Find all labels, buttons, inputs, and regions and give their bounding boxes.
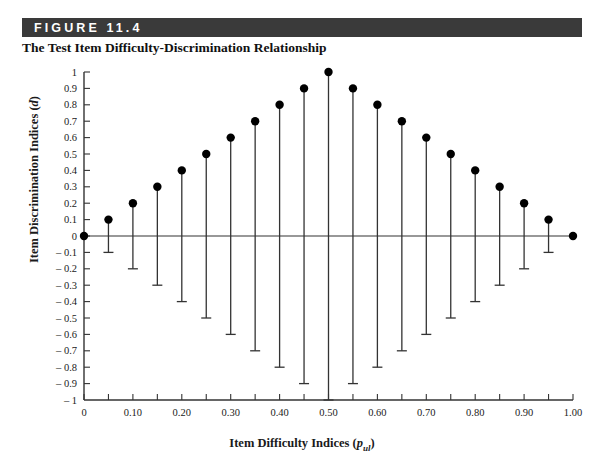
- x-axis-label-subscript: ul: [363, 443, 371, 453]
- data-point: [104, 215, 112, 223]
- y-axis-label-tail: ): [27, 96, 41, 100]
- data-point: [349, 84, 357, 92]
- y-tick-label: 0.7: [64, 116, 77, 127]
- y-tick-label: – 0.5: [55, 313, 77, 324]
- y-axis-label-text: Item Discrimination Indices (: [27, 106, 41, 263]
- y-tick-label: 0.6: [64, 132, 77, 143]
- x-tick-label: 0.40: [270, 407, 288, 418]
- y-axis-label: Item Discrimination Indices (d): [27, 80, 42, 280]
- y-axis-label-italic: d: [27, 100, 41, 106]
- y-tick-label: 0.8: [64, 99, 77, 110]
- data-point: [251, 117, 259, 125]
- y-tick-label: – 0.6: [55, 329, 77, 340]
- y-tick-label: 0.2: [64, 198, 77, 209]
- y-tick-label: – 1: [63, 395, 77, 406]
- x-tick-label: 0.90: [515, 407, 533, 418]
- x-tick-label: 0.70: [417, 407, 435, 418]
- y-tick-label: – 0.7: [55, 345, 77, 356]
- y-tick-label: 1: [72, 67, 77, 78]
- x-axis-label-text: Item Difficulty Indices (: [229, 436, 356, 450]
- figure-root: FIGURE 11.4 The Test Item Difficulty-Dis…: [0, 0, 604, 463]
- x-axis-label: Item Difficulty Indices (pul): [0, 436, 604, 453]
- x-tick-label: 0.10: [124, 407, 142, 418]
- data-point: [324, 68, 332, 76]
- data-point: [447, 150, 455, 158]
- chart-area: 10.90.80.70.60.50.40.30.20.10– 0.1– 0.2–…: [0, 0, 604, 463]
- y-tick-label: – 0.4: [55, 296, 78, 307]
- x-tick-label: 0.50: [319, 407, 337, 418]
- y-tick-label: – 0.8: [55, 362, 77, 373]
- data-point: [471, 166, 479, 174]
- y-tick-label: 0.4: [64, 165, 78, 176]
- data-point: [153, 183, 161, 191]
- data-point: [202, 150, 210, 158]
- x-tick-label: 0.80: [466, 407, 484, 418]
- data-point: [373, 101, 381, 109]
- x-tick-label: 0.60: [368, 407, 386, 418]
- y-tick-label: – 0.1: [55, 247, 77, 258]
- data-point: [544, 215, 552, 223]
- y-tick-label: 0: [72, 231, 77, 242]
- data-point: [227, 133, 235, 141]
- data-point: [178, 166, 186, 174]
- x-axis-label-italic: pul: [357, 436, 371, 450]
- x-axis-label-tail: ): [371, 436, 375, 450]
- x-tick-label: 0.20: [173, 407, 191, 418]
- data-point: [129, 199, 137, 207]
- y-tick-label: – 0.3: [55, 280, 77, 291]
- data-point: [398, 117, 406, 125]
- data-point: [422, 133, 430, 141]
- y-tick-label: 0.3: [64, 181, 77, 192]
- y-tick-label: 0.1: [64, 214, 77, 225]
- data-point: [80, 232, 88, 240]
- x-tick-label: 0: [81, 407, 86, 418]
- chart-plot: 10.90.80.70.60.50.40.30.20.10– 0.1– 0.2–…: [0, 0, 604, 463]
- data-point: [300, 84, 308, 92]
- y-tick-label: – 0.2: [55, 263, 77, 274]
- data-point: [275, 101, 283, 109]
- data-point: [569, 232, 577, 240]
- y-tick-label: 0.5: [64, 149, 77, 160]
- data-point: [495, 183, 503, 191]
- y-tick-label: 0.9: [64, 83, 77, 94]
- data-point: [520, 199, 528, 207]
- y-tick-label: – 0.9: [55, 378, 77, 389]
- x-tick-label: 1.00: [564, 407, 582, 418]
- x-tick-label: 0.30: [222, 407, 240, 418]
